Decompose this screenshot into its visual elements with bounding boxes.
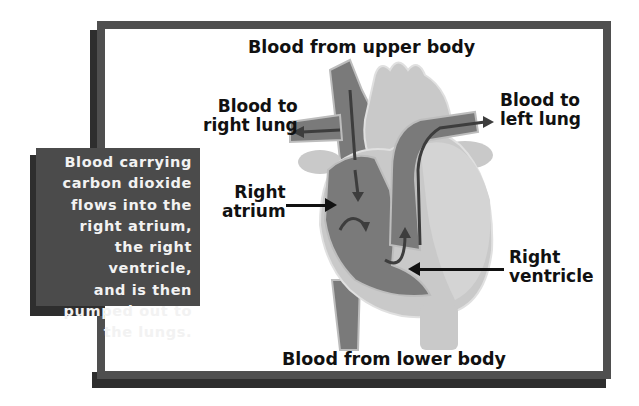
label-upper-body: Blood from upper body <box>248 38 475 57</box>
caption-line: carbon dioxide <box>36 173 192 194</box>
label-right-ventricle: Right ventricle <box>509 248 594 286</box>
caption-line: ventricle, <box>36 258 192 279</box>
right-atrium-pointer-head <box>325 198 337 212</box>
caption-line: right atrium, <box>36 216 192 237</box>
caption-line: pumped out to <box>36 301 192 322</box>
label-right-ventricle-line1: Right <box>509 248 594 267</box>
label-right-atrium: Right atrium <box>222 183 286 221</box>
label-lower-body: Blood from lower body <box>282 350 506 369</box>
caption-line: the lungs. <box>36 322 192 343</box>
label-right-atrium-line2: atrium <box>222 202 286 221</box>
caption-box: Blood carrying carbon dioxide flows into… <box>36 148 200 306</box>
right-ventricle-pointer <box>420 268 504 271</box>
label-left-lung-line2: left lung <box>500 110 581 129</box>
caption-line: and is then <box>36 280 192 301</box>
caption-line: the right <box>36 237 192 258</box>
right-atrium-pointer <box>286 204 326 207</box>
caption-line: Blood carrying <box>36 152 192 173</box>
label-right-lung-line1: Blood to <box>203 97 298 116</box>
label-left-lung-line1: Blood to <box>500 91 581 110</box>
label-right-atrium-line1: Right <box>222 183 286 202</box>
caption-line: flows into the <box>36 195 192 216</box>
label-right-lung: Blood to right lung <box>203 97 298 135</box>
right-ventricle-pointer-head <box>408 262 420 276</box>
label-right-ventricle-line2: ventricle <box>509 267 594 286</box>
label-right-lung-line2: right lung <box>203 116 298 135</box>
label-left-lung: Blood to left lung <box>500 91 581 129</box>
